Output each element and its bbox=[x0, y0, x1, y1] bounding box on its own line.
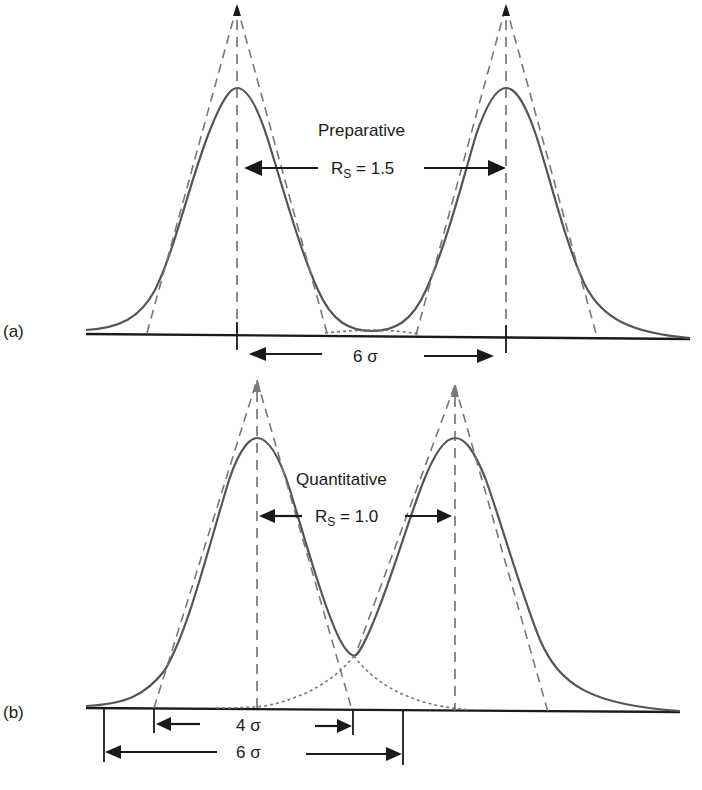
4sigma-arrowhead-left-b bbox=[156, 717, 171, 731]
tail-dotted-peak1-b bbox=[354, 656, 470, 710]
sigma-arrowhead-left-a bbox=[249, 347, 266, 361]
apex-arrow-peak1-b bbox=[253, 380, 261, 392]
6sigma-arrowhead-right-b bbox=[386, 747, 402, 761]
panel-label-b: (b) bbox=[3, 703, 24, 722]
panel-label-a: (a) bbox=[3, 322, 24, 341]
rs-label-a: RS = 1.5 bbox=[331, 159, 394, 181]
apex-arrow-peak2-a bbox=[502, 4, 510, 16]
tail-dotted-peak2-b bbox=[215, 656, 354, 708]
panel-b: (b) Quantitative RS = 1.0 4 σ bbox=[3, 380, 680, 765]
baseline-b bbox=[86, 708, 680, 712]
4sigma-label-b: 4 σ bbox=[236, 716, 261, 735]
title-quantitative: Quantitative bbox=[296, 470, 387, 489]
rs-arrowhead-right-b bbox=[437, 509, 452, 523]
baseline-a bbox=[86, 334, 690, 339]
title-preparative: Preparative bbox=[318, 121, 405, 140]
6sigma-arrowhead-left-b bbox=[105, 745, 121, 759]
4sigma-arrowhead-right-b bbox=[337, 719, 352, 733]
apex-arrow-peak1-a bbox=[233, 4, 241, 16]
sigma-label-a: 6 σ bbox=[353, 347, 378, 366]
rs-arrowhead-right-a bbox=[488, 160, 506, 176]
rs-label-b: RS = 1.0 bbox=[315, 507, 378, 529]
6sigma-label-b: 6 σ bbox=[236, 743, 261, 762]
rs-arrowhead-left-b bbox=[259, 509, 275, 523]
sigma-arrowhead-right-a bbox=[477, 349, 494, 363]
chromatography-resolution-figure: (a) Preparative RS = 1.5 6 σ bbox=[0, 0, 702, 790]
tangent-lines-peak2-b bbox=[358, 385, 548, 712]
tangent-lines-peak1-b bbox=[154, 380, 352, 710]
panel-a: (a) Preparative RS = 1.5 6 σ bbox=[3, 4, 690, 366]
rs-arrowhead-left-a bbox=[244, 160, 262, 176]
